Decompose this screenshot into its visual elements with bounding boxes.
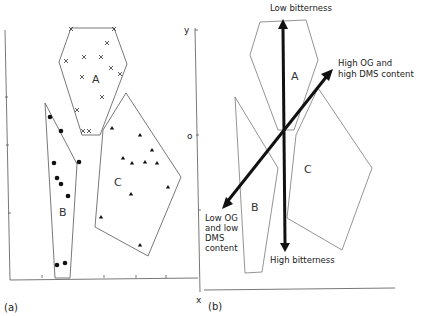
cluster-label-b: B — [59, 206, 67, 219]
panel-a-x-label: x — [196, 295, 201, 305]
high-og-label-line2: high DMS content — [338, 69, 414, 79]
low-og-label-line1: Low OG — [205, 213, 238, 223]
panel-b-axes — [204, 288, 395, 290]
low-og-label-line2: and low — [205, 223, 238, 233]
cluster-label-b-b: B — [251, 201, 259, 214]
bitterness-vector — [283, 28, 285, 243]
cluster-label-b-c: C — [304, 163, 312, 176]
panel-a-axes — [5, 28, 201, 292]
panel-a-hulls — [45, 28, 181, 278]
figure-canvas — [0, 0, 428, 316]
panel-a-origin-label: o — [187, 131, 193, 141]
arrow-head-high-bitterness — [280, 243, 290, 252]
high-bitterness-label: High bitterness — [270, 255, 335, 265]
hull-c — [95, 93, 181, 256]
panel-a-left-axis — [5, 30, 198, 280]
panel-a-tag: (a) — [4, 303, 18, 313]
low-bitterness-label: Low bitterness — [270, 3, 332, 13]
cluster-label-c: C — [114, 176, 122, 189]
cluster-label-a: A — [92, 73, 100, 86]
panel-a-right-axis — [195, 28, 200, 292]
og-dms-vector — [227, 76, 327, 202]
low-og-label-line4: content — [205, 243, 238, 253]
panel-b-tag: (b) — [208, 302, 222, 312]
low-og-label-line3: DMS — [205, 233, 224, 243]
high-og-label-line1: High OG and — [338, 58, 392, 68]
cluster-label-b-a: A — [291, 70, 299, 83]
panel-a-y-label: y — [184, 25, 189, 35]
